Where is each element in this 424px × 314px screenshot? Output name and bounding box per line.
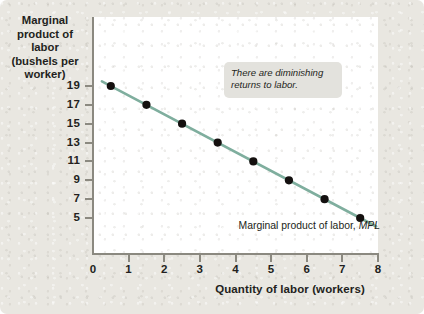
y-tick-17 [85, 104, 92, 106]
y-tick-7 [85, 198, 92, 200]
x-tick-label-5: 5 [259, 263, 283, 275]
y-axis-title-line-1: Marginal [2, 14, 88, 28]
x-tick-label-4: 4 [224, 263, 248, 275]
x-tick-label-7: 7 [330, 263, 354, 275]
x-tick-label-3: 3 [188, 263, 212, 275]
y-axis-title-line-2: product of labor [2, 28, 88, 55]
x-tick-4 [235, 255, 237, 262]
x-axis-title: Quantity of labor (workers) [170, 283, 410, 295]
y-tick-5 [85, 217, 92, 219]
x-tick-label-2: 2 [152, 263, 176, 275]
x-tick-label-1: 1 [117, 263, 141, 275]
y-axis-line [92, 17, 94, 255]
y-tick-label-9: 9 [40, 173, 80, 185]
series-label-text: Marginal product of labor, [238, 220, 358, 231]
y-tick-label-17: 17 [40, 98, 80, 110]
y-tick-label-5: 5 [40, 211, 80, 223]
diminishing-returns-callout: There are diminishing returns to labor. [224, 62, 342, 98]
series-label: Marginal product of labor, MPL [160, 220, 380, 231]
x-tick-5 [270, 255, 272, 262]
chart-figure: Marginalproduct of labor(bushels perwork… [0, 0, 424, 314]
series-label-mpl: MPL [359, 220, 380, 231]
callout-line-1: There are diminishing [231, 67, 335, 79]
x-tick-label-6: 6 [295, 263, 319, 275]
y-axis-title-line-3: (bushels per [2, 55, 88, 69]
x-tick-8 [377, 255, 379, 262]
y-tick-label-15: 15 [40, 117, 80, 129]
x-tick-7 [341, 255, 343, 262]
x-tick-label-8: 8 [366, 263, 390, 275]
x-tick-3 [199, 255, 201, 262]
x-tick-1 [128, 255, 130, 262]
y-axis-title: Marginalproduct of labor(bushels perwork… [2, 14, 88, 82]
y-tick-9 [85, 179, 92, 181]
y-tick-19 [85, 85, 92, 87]
y-tick-label-7: 7 [40, 192, 80, 204]
y-tick-label-11: 11 [40, 154, 80, 166]
x-tick-6 [306, 255, 308, 262]
x-tick-label-0: 0 [81, 263, 105, 275]
x-tick-2 [163, 255, 165, 262]
y-tick-13 [85, 142, 92, 144]
y-tick-label-13: 13 [40, 136, 80, 148]
plot-panel [93, 17, 378, 253]
y-tick-11 [85, 160, 92, 162]
y-tick-15 [85, 123, 92, 125]
y-tick-label-19: 19 [40, 79, 80, 91]
callout-line-2: returns to labor. [231, 79, 335, 91]
